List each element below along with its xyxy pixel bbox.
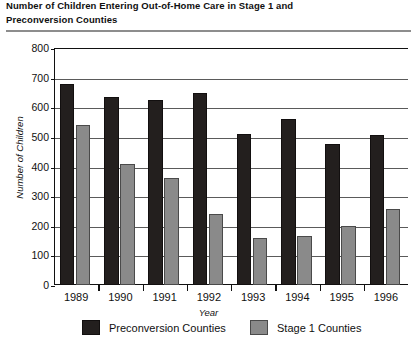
y-tick-label: 0	[5, 279, 49, 291]
bar	[148, 100, 163, 285]
bar	[193, 93, 208, 285]
legend-item: Preconversion Counties	[82, 320, 226, 335]
bar-group	[187, 48, 231, 285]
y-tick-label: 100	[5, 249, 49, 261]
x-tick-label: 1989	[64, 291, 88, 303]
bar	[76, 125, 91, 285]
bar	[164, 178, 179, 285]
bar	[120, 164, 135, 285]
y-tick-label: 200	[5, 220, 49, 232]
plot-wrapper: Number of Children 010020030040050060070…	[0, 0, 417, 346]
bar-group	[54, 48, 98, 285]
bar-group	[231, 48, 275, 285]
legend-swatch	[82, 320, 100, 335]
bar	[325, 144, 340, 285]
bar	[341, 226, 356, 285]
legend-swatch	[250, 320, 268, 335]
bar-group	[275, 48, 319, 285]
legend-label: Preconversion Counties	[109, 322, 226, 334]
y-tick-label: 300	[5, 190, 49, 202]
legend-item: Stage 1 Counties	[250, 320, 361, 335]
bar	[237, 134, 252, 285]
y-tick-label: 400	[5, 161, 49, 173]
y-tick-label: 600	[5, 101, 49, 113]
bar	[104, 97, 119, 285]
bar	[209, 214, 224, 285]
x-tick-label: 1993	[241, 291, 265, 303]
x-tick-label: 1992	[197, 291, 221, 303]
x-axis-tick-labels: 19891990199119921993199419951996	[54, 291, 408, 307]
bar-group	[364, 48, 408, 285]
y-axis-tick-labels: 0100200300400500600700800	[0, 48, 49, 285]
x-tick-label: 1996	[374, 291, 398, 303]
bar	[297, 236, 312, 285]
bar	[60, 84, 75, 285]
bars-layer	[54, 48, 408, 285]
x-tick-label: 1995	[329, 291, 353, 303]
y-tick-label: 700	[5, 72, 49, 84]
bar	[370, 135, 385, 285]
bar-group	[98, 48, 142, 285]
legend-label: Stage 1 Counties	[277, 322, 361, 334]
chart-legend: Preconversion CountiesStage 1 Counties	[54, 320, 408, 342]
bar	[253, 238, 268, 285]
chart-figure: Number of Children Entering Out-of-Home …	[0, 0, 417, 346]
x-tick-label: 1991	[152, 291, 176, 303]
y-tick-label: 500	[5, 131, 49, 143]
x-axis-title: Year	[0, 307, 417, 318]
y-tick-label: 800	[5, 42, 49, 54]
x-tick-label: 1994	[285, 291, 309, 303]
bar	[281, 119, 296, 285]
bar-group	[320, 48, 364, 285]
bar	[386, 209, 401, 285]
x-tick-label: 1990	[108, 291, 132, 303]
bar-group	[143, 48, 187, 285]
